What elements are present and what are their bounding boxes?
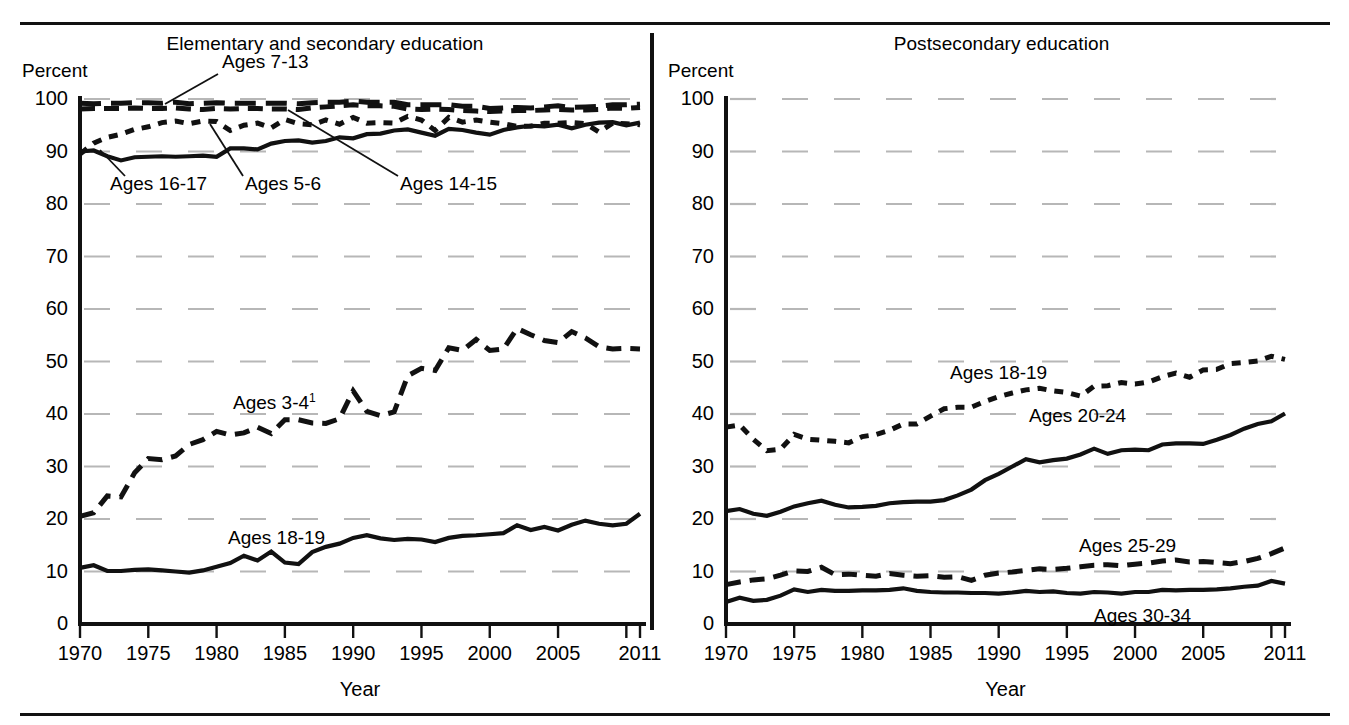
series-line-ages-18-19 xyxy=(80,514,640,573)
series-label-ages-16-17: Ages 16-17 xyxy=(110,173,207,194)
series-label-ages-3-4: Ages 3-41 xyxy=(233,391,316,413)
x-axis-tick-label: 1995 xyxy=(1045,642,1090,664)
series-line-ages-16-17 xyxy=(80,122,640,160)
y-axis-tick-label: 0 xyxy=(57,612,68,634)
y-axis-tick-label: 90 xyxy=(692,140,714,162)
series-label-ages-25-29: Ages 25-29 xyxy=(1079,535,1176,556)
y-axis-tick-label: 90 xyxy=(46,140,68,162)
y-axis-tick-label: 70 xyxy=(692,245,714,267)
x-axis-tick-label: 1985 xyxy=(263,642,308,664)
series-label-ages-7-13: Ages 7-13 xyxy=(222,51,309,72)
series-line-ages-25-29 xyxy=(726,548,1285,585)
series-label-ages-18-19: Ages 18-19 xyxy=(228,527,325,548)
series-line-ages-20-24 xyxy=(726,413,1285,515)
y-axis-tick-label: 50 xyxy=(46,350,68,372)
panel-postsecondary: Postsecondary education Percent 01020304… xyxy=(654,0,1349,725)
x-axis-tick-label: 2005 xyxy=(1181,642,1226,664)
chart-svg-elementary: 0102030405060708090100197019751980198519… xyxy=(0,0,650,700)
y-axis-tick-label: 50 xyxy=(692,350,714,372)
x-axis-tick-label: 2000 xyxy=(1113,642,1158,664)
chart-svg-postsecondary: 0102030405060708090100197019751980198519… xyxy=(654,0,1349,700)
y-axis-tick-label: 80 xyxy=(46,192,68,214)
series-label-ages-20-24: Ages 20-24 xyxy=(1029,405,1127,426)
x-axis-tick-label: 2000 xyxy=(468,642,513,664)
x-axis-title: Year xyxy=(340,678,381,700)
x-axis-tick-label: 2005 xyxy=(536,642,581,664)
y-axis-tick-label: 70 xyxy=(46,245,68,267)
x-axis-tick-label: 1990 xyxy=(976,642,1021,664)
x-axis-tick-label: 1980 xyxy=(840,642,885,664)
x-axis-tick-label: 1980 xyxy=(194,642,239,664)
y-axis-tick-label: 20 xyxy=(692,507,714,529)
y-axis-tick-label: 30 xyxy=(46,455,68,477)
x-axis-tick-label: 1970 xyxy=(58,642,103,664)
x-axis-tick-label: 1995 xyxy=(399,642,444,664)
y-axis-tick-label: 10 xyxy=(46,560,68,582)
y-axis-tick-label: 100 xyxy=(681,87,714,109)
series-line-ages-3-4 xyxy=(80,328,640,516)
series-label-ages-30-34: Ages 30-34 xyxy=(1094,605,1192,626)
series-label-ages-14-15: Ages 14-15 xyxy=(400,173,497,194)
y-axis-tick-label: 0 xyxy=(703,612,714,634)
y-axis-tick-label: 60 xyxy=(692,297,714,319)
y-axis-tick-label: 40 xyxy=(692,402,714,424)
series-label-ages-5-6: Ages 5-6 xyxy=(245,173,321,194)
x-axis-tick-label: 1985 xyxy=(908,642,953,664)
figure-root: Elementary and secondary education Perce… xyxy=(0,0,1349,725)
x-axis-tick-label: 1970 xyxy=(704,642,749,664)
y-axis-tick-label: 60 xyxy=(46,297,68,319)
y-axis-tick-label: 30 xyxy=(692,455,714,477)
x-axis-tick-label: 1975 xyxy=(126,642,171,664)
x-axis-title: Year xyxy=(985,678,1026,700)
y-axis-tick-label: 100 xyxy=(35,87,68,109)
y-axis-tick-label: 20 xyxy=(46,507,68,529)
x-axis-tick-label: 2011 xyxy=(1263,642,1306,664)
y-axis-tick-label: 80 xyxy=(692,192,714,214)
x-axis-tick-label: 1975 xyxy=(772,642,817,664)
x-axis-tick-label: 1990 xyxy=(331,642,376,664)
y-axis-tick-label: 40 xyxy=(46,402,68,424)
y-axis-tick-label: 10 xyxy=(692,560,714,582)
series-line-ages-30-34 xyxy=(726,581,1285,602)
panel-elementary-secondary: Elementary and secondary education Perce… xyxy=(0,0,650,725)
series-label-ages-18-19: Ages 18-19 xyxy=(950,362,1047,383)
